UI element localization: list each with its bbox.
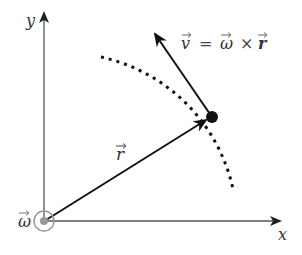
point-mass	[206, 111, 218, 123]
position-vector-r	[46, 120, 206, 220]
svg-text:×: ×	[240, 34, 253, 53]
svg-text:ω: ω	[220, 34, 233, 53]
svg-text:r: r	[116, 144, 125, 164]
diagram-canvas: y x r ω v = ω × r	[0, 0, 302, 255]
svg-text:r: r	[258, 34, 268, 53]
svg-text:=: =	[199, 34, 212, 53]
y-axis-label: y	[25, 11, 36, 30]
r-vector-label: r	[116, 144, 126, 165]
velocity-equation-label: v = ω × r	[181, 33, 268, 54]
omega-label: ω	[18, 211, 31, 232]
dotted-circular-path	[101, 57, 233, 189]
svg-text:ω: ω	[18, 212, 31, 231]
x-axis-label: x	[278, 225, 287, 244]
